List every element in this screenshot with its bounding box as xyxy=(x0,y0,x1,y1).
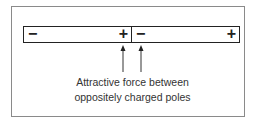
arrow-up-icon xyxy=(139,45,144,72)
caption-line-2: oppositely charged poles xyxy=(60,90,205,105)
caption-line-1: Attractive force between xyxy=(60,75,205,90)
arrow-up-icon xyxy=(121,45,126,72)
